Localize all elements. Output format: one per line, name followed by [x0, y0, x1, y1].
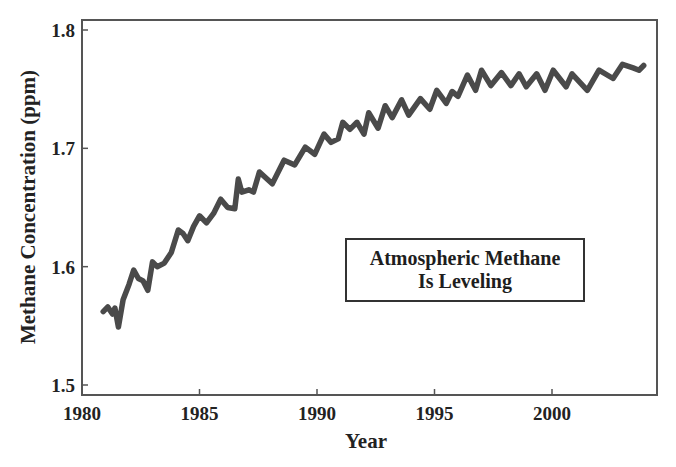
x-tick-label: 2000 — [533, 403, 571, 424]
y-tick-label: 1.8 — [51, 20, 75, 41]
methane-chart: 1.51.61.71.8 19801985199019952000 Year M… — [0, 0, 676, 467]
x-tick-label: 1990 — [298, 403, 336, 424]
x-axis-label: Year — [345, 429, 387, 453]
y-axis-label: Methane Concentration (ppm) — [16, 70, 40, 344]
y-tick-label: 1.6 — [51, 257, 75, 278]
x-tick-label: 1985 — [181, 403, 219, 424]
annotation-line-2: Is Leveling — [418, 270, 512, 293]
annotation-box: Atmospheric Methane Is Leveling — [345, 238, 585, 302]
y-tick-label: 1.5 — [51, 375, 75, 396]
x-tick-label: 1995 — [416, 403, 454, 424]
x-tick-label: 1980 — [63, 403, 101, 424]
annotation-line-1: Atmospheric Methane — [370, 247, 561, 270]
y-tick-label: 1.7 — [51, 138, 75, 159]
